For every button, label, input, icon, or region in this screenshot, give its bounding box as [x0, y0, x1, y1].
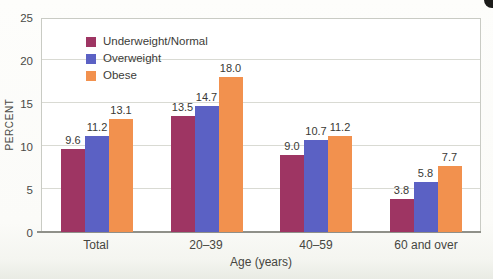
bar: [414, 182, 438, 232]
bar-group: 9.010.711.2: [261, 19, 371, 232]
legend-swatch-icon: [86, 54, 96, 64]
legend-label: Underweight/Normal: [103, 35, 208, 48]
x-axis-category-label: Total: [41, 238, 151, 252]
bar-value-label: 14.7: [196, 91, 217, 103]
legend-item: Underweight/Normal: [86, 35, 208, 48]
x-axis-category-label: 60 and over: [371, 238, 481, 252]
plot-area: Underweight/NormalOverweightObese 9.611.…: [41, 18, 481, 233]
x-axis-category-labels: Total20–3940–5960 and over: [41, 238, 481, 252]
bar-value-label: 5.8: [418, 167, 433, 179]
bar: [280, 155, 304, 232]
bar-value-label: 13.5: [172, 101, 193, 113]
bar-value-label: 9.0: [284, 140, 299, 152]
bar: [61, 149, 85, 232]
bar-group: 3.85.87.7: [371, 19, 481, 232]
legend-swatch-icon: [86, 71, 96, 81]
bar: [109, 119, 133, 232]
y-axis-tick-labels: 0510152025: [0, 18, 36, 233]
bar: [438, 166, 462, 232]
bar-value-label: 7.7: [442, 151, 457, 163]
x-axis-category-label: 40–59: [261, 238, 371, 252]
bar: [304, 140, 328, 232]
bar: [328, 136, 352, 232]
scanned-page-background: PERCENT 0510152025 Underweight/NormalOve…: [0, 0, 493, 279]
bar-value-label: 11.2: [87, 121, 108, 133]
bar-value-label: 11.2: [330, 121, 351, 133]
x-axis-category-label: 20–39: [151, 238, 261, 252]
bar-value-label: 13.1: [110, 104, 131, 116]
y-axis-tick-label: 10: [20, 141, 33, 153]
bar: [390, 199, 414, 232]
bar: [219, 77, 243, 232]
y-axis-tick-label: 25: [20, 12, 33, 24]
y-axis-tick-label: 20: [20, 55, 33, 67]
y-axis-tick-label: 0: [27, 227, 33, 239]
y-axis-tick-label: 15: [20, 98, 33, 110]
legend: Underweight/NormalOverweightObese: [86, 35, 208, 82]
bar: [171, 116, 195, 232]
legend-label: Obese: [103, 69, 137, 82]
x-axis-title: Age (years): [41, 255, 481, 269]
bar: [195, 106, 219, 232]
legend-item: Obese: [86, 69, 208, 82]
legend-item: Overweight: [86, 52, 208, 65]
bar-value-label: 9.6: [65, 134, 80, 146]
bar-value-label: 10.7: [305, 125, 326, 137]
legend-label: Overweight: [103, 52, 161, 65]
bar: [85, 136, 109, 232]
y-axis-tick-label: 5: [27, 184, 33, 196]
page-corner-mark: [484, 0, 493, 8]
legend-swatch-icon: [86, 37, 96, 47]
bar-value-label: 18.0: [220, 62, 241, 74]
bar-value-label: 3.8: [394, 184, 409, 196]
